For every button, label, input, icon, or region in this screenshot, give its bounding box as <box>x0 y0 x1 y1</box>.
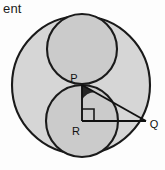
vertex-label-q: Q <box>150 118 159 130</box>
geometry-figure: ent P R Q <box>0 0 165 170</box>
geometry-diagram-svg: P R Q <box>0 0 165 170</box>
vertex-label-r: R <box>72 125 80 137</box>
vertex-label-p: P <box>70 72 77 84</box>
top-inner-circle <box>47 14 117 84</box>
